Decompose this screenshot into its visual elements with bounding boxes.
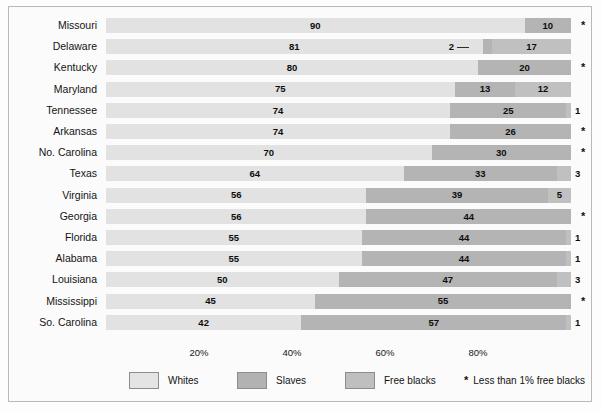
stacked-bar: 7030 — [106, 145, 571, 160]
x-axis-tick-label: 40% — [282, 347, 301, 358]
segment-slaves: 13 — [455, 82, 515, 97]
state-label: Alabama — [9, 248, 97, 269]
segment-free-blacks — [566, 251, 571, 266]
segment-value: 25 — [503, 106, 514, 116]
stacked-bar: 5544 — [106, 230, 571, 245]
chart-row: Delaware81172 — [9, 36, 591, 57]
segment-slaves: 30 — [432, 145, 572, 160]
legend-item-free-blacks: Free blacks — [345, 369, 436, 391]
x-axis-tick-label: 20% — [189, 347, 208, 358]
state-label: Texas — [9, 163, 97, 184]
segment-whites: 55 — [106, 251, 362, 266]
chart-row: Tennessee74251 — [9, 100, 591, 121]
legend-item-slaves: Slaves — [237, 369, 306, 391]
free-blacks-outside-value: 1 — [575, 251, 580, 266]
chart-row: Kentucky8020* — [9, 57, 591, 78]
x-axis-tick-label: 60% — [375, 347, 394, 358]
segment-whites: 64 — [106, 166, 404, 181]
stacked-bar: 8020 — [106, 60, 571, 75]
segment-slaves: 25 — [450, 103, 566, 118]
segment-free-blacks — [566, 315, 571, 330]
segment-free-blacks: 17 — [492, 39, 571, 54]
segment-free-blacks — [557, 166, 571, 181]
segment-value: 56 — [231, 212, 242, 222]
segment-slaves: 20 — [478, 60, 571, 75]
footnote-star-icon: * — [464, 374, 468, 386]
segment-slaves: 33 — [404, 166, 557, 181]
segment-value: 55 — [229, 254, 240, 264]
less-than-one-percent-star: * — [581, 145, 585, 160]
segment-value: 90 — [310, 21, 321, 31]
segment-value: 47 — [442, 275, 453, 285]
segment-whites: 45 — [106, 294, 315, 309]
stacked-bar-plot: Missouri9010*Delaware81172Kentucky8020*M… — [9, 7, 591, 347]
segment-value: 17 — [526, 42, 537, 52]
segment-value: 44 — [463, 212, 474, 222]
free-blacks-outside-value: 1 — [575, 103, 580, 118]
stacked-bar: 9010 — [106, 18, 571, 33]
state-label: Missouri — [9, 15, 97, 36]
stacked-bar: 5644 — [106, 209, 571, 224]
chart-row: Louisiana50473 — [9, 269, 591, 290]
chart-row: Georgia5644* — [9, 206, 591, 227]
stacked-bar: 751312 — [106, 82, 571, 97]
segment-value: 39 — [452, 190, 463, 200]
segment-value: 26 — [505, 127, 516, 137]
state-label: So. Carolina — [9, 312, 97, 333]
state-label: Virginia — [9, 185, 97, 206]
footnote-text: Less than 1% free blacks — [473, 375, 585, 386]
legend-item-whites: Whites — [129, 369, 199, 391]
chart-row: So. Carolina42571 — [9, 312, 591, 333]
segment-value: 12 — [538, 84, 549, 94]
segment-slaves: 44 — [366, 209, 571, 224]
segment-slaves: 10 — [525, 18, 572, 33]
state-label: Arkansas — [9, 121, 97, 142]
chart-row: Missouri9010* — [9, 15, 591, 36]
segment-value: 75 — [275, 84, 286, 94]
segment-value: 20 — [519, 63, 530, 73]
segment-whites: 90 — [106, 18, 525, 33]
segment-free-blacks: 5 — [548, 188, 571, 203]
stacked-bar: 6433 — [106, 166, 571, 181]
slaves-callout-value: 2 — [449, 41, 454, 52]
segment-whites: 56 — [106, 209, 366, 224]
state-label: Maryland — [9, 79, 97, 100]
slaves-callout: 2 — [449, 39, 471, 54]
state-label: Delaware — [9, 36, 97, 57]
legend-label: Free blacks — [384, 375, 436, 386]
free-blacks-outside-value: 1 — [575, 315, 580, 330]
state-label: Louisiana — [9, 269, 97, 290]
chart-row: Mississippi4555* — [9, 291, 591, 312]
stacked-bar: 4555 — [106, 294, 571, 309]
stacked-bar: 7426 — [106, 124, 571, 139]
segment-value: 42 — [198, 318, 209, 328]
segment-slaves: 47 — [339, 272, 558, 287]
segment-value: 74 — [273, 127, 284, 137]
x-axis-tick-label: 80% — [468, 347, 487, 358]
segment-value: 50 — [217, 275, 228, 285]
segment-slaves: 44 — [362, 230, 567, 245]
stacked-bar: 56395 — [106, 188, 571, 203]
segment-free-blacks: 12 — [515, 82, 571, 97]
legend-label: Slaves — [276, 375, 306, 386]
segment-slaves — [483, 39, 492, 54]
segment-value: 70 — [263, 148, 274, 158]
stacked-bar: 8117 — [106, 39, 571, 54]
callout-leader-line — [457, 47, 469, 48]
segment-value: 33 — [475, 169, 486, 179]
segment-value: 13 — [480, 84, 491, 94]
free-blacks-outside-value: 3 — [575, 166, 580, 181]
segment-value: 55 — [438, 296, 449, 306]
segment-whites: 55 — [106, 230, 362, 245]
less-than-one-percent-star: * — [581, 18, 585, 33]
segment-value: 45 — [205, 296, 216, 306]
chart-row: Texas64333 — [9, 163, 591, 184]
chart-frame: Missouri9010*Delaware81172Kentucky8020*M… — [8, 6, 592, 402]
segment-whites: 56 — [106, 188, 366, 203]
segment-value: 5 — [557, 190, 562, 200]
segment-whites: 74 — [106, 124, 450, 139]
segment-value: 44 — [459, 254, 470, 264]
stacked-bar: 7425 — [106, 103, 571, 118]
segment-whites: 81 — [106, 39, 483, 54]
segment-value: 30 — [496, 148, 507, 158]
